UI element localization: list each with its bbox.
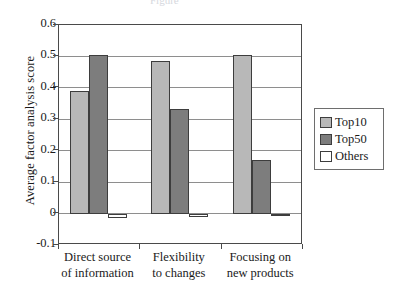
legend-label-top10: Top10 bbox=[335, 116, 367, 129]
legend-label-top50: Top50 bbox=[335, 133, 367, 146]
y-tick-label: 0.4 bbox=[0, 80, 56, 93]
legend-swatch-others bbox=[320, 151, 332, 162]
y-tick-label: 0.2 bbox=[0, 143, 56, 156]
bar-chart: Figure Average factor analysis score 0.6… bbox=[0, 0, 396, 298]
legend-label-others: Others bbox=[335, 150, 368, 163]
legend-item-top10[interactable]: Top10 bbox=[320, 114, 379, 130]
bar-others-1 bbox=[108, 214, 127, 219]
x-tick-mark bbox=[139, 244, 140, 249]
bar-top50-3 bbox=[252, 160, 271, 213]
category-label-line1: Focusing on bbox=[229, 250, 290, 264]
cutoff-title-sliver: Figure bbox=[150, 0, 270, 7]
legend-swatch-top50 bbox=[320, 134, 332, 145]
legend: Top10 Top50 Others bbox=[314, 108, 384, 170]
y-tick-label: 0.1 bbox=[0, 174, 56, 187]
bar-top10-2 bbox=[151, 61, 170, 213]
x-tick-mark bbox=[58, 244, 59, 249]
bar-others-3 bbox=[271, 214, 290, 217]
category-label: Focusing onnew products bbox=[200, 250, 320, 281]
bar-others-2 bbox=[189, 214, 208, 218]
bar-top50-2 bbox=[170, 109, 189, 214]
legend-swatch-top10 bbox=[320, 117, 332, 128]
bar-top10-3 bbox=[233, 55, 252, 214]
y-tick-label: -0.1 bbox=[0, 237, 56, 250]
bar-top50-1 bbox=[89, 55, 108, 214]
y-tick-label: 0.5 bbox=[0, 48, 56, 61]
y-tick-label: 0.3 bbox=[0, 111, 56, 124]
plot-area bbox=[58, 24, 302, 244]
x-tick-mark bbox=[302, 244, 303, 249]
bar-top10-1 bbox=[70, 91, 89, 214]
y-tick-label: 0 bbox=[0, 206, 56, 219]
cutoff-title-text: Figure bbox=[150, 0, 179, 6]
legend-item-top50[interactable]: Top50 bbox=[320, 131, 379, 147]
y-tick-label: 0.6 bbox=[0, 17, 56, 30]
x-tick-mark bbox=[221, 244, 222, 249]
category-label-line2: new products bbox=[200, 266, 320, 282]
category-label-line1: Flexibility bbox=[153, 250, 205, 264]
legend-item-others[interactable]: Others bbox=[320, 148, 379, 164]
